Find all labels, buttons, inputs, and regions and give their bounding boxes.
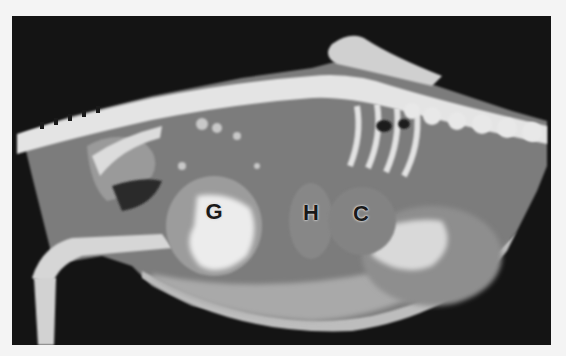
ct-image-frame	[12, 16, 551, 345]
organ-label-h: H	[303, 202, 319, 224]
organ-label-g: G	[205, 201, 222, 223]
ct-volume-rendering	[12, 16, 551, 345]
organ-label-c: C	[353, 203, 369, 225]
hind-leg-tibia	[34, 278, 56, 345]
